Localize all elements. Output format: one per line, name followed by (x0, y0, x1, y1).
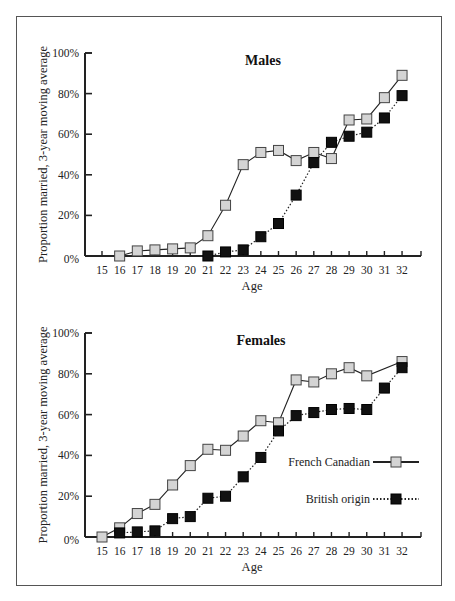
x-tick-label: 20 (185, 264, 197, 276)
french-canadian-marker (185, 461, 195, 471)
x-tick-label: 23 (237, 264, 249, 276)
british-origin-marker (185, 512, 195, 522)
y-tick-label: 80% (58, 88, 80, 100)
legend-marker-light-square (391, 457, 401, 467)
british-origin-marker (344, 403, 354, 413)
british-origin-marker (168, 514, 178, 524)
french-canadian-marker (97, 532, 107, 542)
british-origin-line (208, 96, 402, 256)
legend-label: British origin (306, 492, 370, 506)
french-canadian-marker (185, 243, 195, 253)
x-tick-label: 27 (308, 545, 320, 557)
x-tick-label: 30 (361, 264, 373, 276)
french-canadian-marker (150, 499, 160, 509)
british-origin-marker (274, 219, 284, 229)
british-origin-marker (326, 405, 336, 415)
y-tick-label: 100% (52, 47, 79, 59)
x-tick-label: 15 (96, 264, 108, 276)
x-tick-label: 21 (202, 264, 214, 276)
x-tick-label: 25 (273, 545, 285, 557)
british-origin-marker (132, 527, 142, 537)
x-tick-label: 28 (326, 545, 338, 557)
females-chart: 0%20%40%60%80%100%1516171819202122232425… (0, 280, 455, 581)
british-origin-marker (150, 526, 160, 536)
x-tick-label: 32 (396, 264, 408, 276)
x-tick-label: 28 (326, 264, 338, 276)
british-origin-marker (397, 91, 407, 101)
x-tick-label: 27 (308, 264, 320, 276)
british-origin-marker (238, 245, 248, 255)
x-tick-label: 26 (290, 545, 302, 557)
british-origin-marker (326, 137, 336, 147)
french-canadian-marker (344, 363, 354, 373)
british-origin-line (120, 368, 402, 533)
french-canadian-marker (238, 431, 248, 441)
french-canadian-marker (238, 160, 248, 170)
british-origin-marker (203, 251, 213, 261)
french-canadian-marker (168, 244, 178, 254)
x-tick-label: 24 (255, 264, 267, 276)
french-canadian-marker (379, 93, 389, 103)
french-canadian-marker (132, 509, 142, 519)
legend-item-british-origin: British origin (306, 492, 419, 506)
french-canadian-marker (309, 377, 319, 387)
x-tick-label: 17 (132, 545, 144, 557)
x-tick-label: 19 (167, 264, 179, 276)
x-tick-label: 22 (220, 545, 232, 557)
y-tick-label: 80% (58, 368, 80, 380)
french-canadian-marker (132, 246, 142, 256)
french-canadian-marker (168, 480, 178, 490)
french-canadian-marker (344, 115, 354, 125)
y-tick-label: 20% (58, 209, 80, 221)
french-canadian-marker (291, 156, 301, 166)
x-tick-label: 16 (114, 264, 126, 276)
x-tick-label: 25 (273, 264, 285, 276)
x-tick-label: 31 (379, 545, 391, 557)
chart-title: Females (237, 333, 287, 348)
x-tick-label: 22 (220, 264, 232, 276)
x-tick-label: 21 (202, 545, 214, 557)
british-origin-marker (362, 127, 372, 137)
british-origin-marker (309, 408, 319, 418)
x-tick-label: 19 (167, 545, 179, 557)
french-canadian-marker (362, 114, 372, 124)
x-tick-label: 29 (343, 264, 355, 276)
british-origin-marker (291, 411, 301, 421)
x-tick-label: 16 (114, 545, 126, 557)
french-canadian-marker (150, 245, 160, 255)
french-canadian-marker (362, 371, 372, 381)
british-origin-marker (256, 232, 266, 242)
french-canadian-marker (256, 147, 266, 157)
x-tick-label: 15 (96, 545, 108, 557)
legend-item-french-canadian: French Canadian (288, 455, 419, 469)
french-canadian-marker (291, 375, 301, 385)
british-origin-marker (256, 452, 266, 462)
french-canadian-marker (221, 445, 231, 455)
british-origin-marker (238, 472, 248, 482)
chart-title: Males (245, 53, 281, 68)
x-tick-label: 31 (379, 264, 391, 276)
french-canadian-line (120, 75, 402, 256)
british-origin-marker (379, 113, 389, 123)
x-tick-label: 18 (149, 545, 161, 557)
x-tick-label: 24 (255, 545, 267, 557)
british-origin-marker (221, 247, 231, 257)
french-canadian-marker (256, 416, 266, 426)
french-canadian-marker (203, 444, 213, 454)
y-tick-label: 40% (58, 169, 80, 181)
y-tick-label: 20% (58, 490, 80, 502)
french-canadian-marker (397, 70, 407, 80)
x-tick-label: 32 (396, 545, 408, 557)
british-origin-marker (221, 491, 231, 501)
y-tick-label: 40% (58, 449, 80, 461)
y-tick-label: 60% (58, 409, 80, 421)
french-canadian-line (102, 362, 402, 537)
y-tick-label: 60% (58, 128, 80, 140)
y-tick-label: 0% (64, 534, 80, 546)
british-origin-marker (344, 131, 354, 141)
french-canadian-marker (115, 251, 125, 261)
french-canadian-marker (274, 145, 284, 155)
legend-label: French Canadian (288, 455, 370, 469)
x-tick-label: 30 (361, 545, 373, 557)
british-origin-marker (115, 528, 125, 538)
